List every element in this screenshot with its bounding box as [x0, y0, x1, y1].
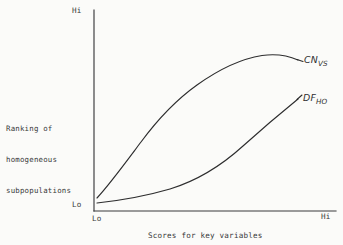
series-curve-df-ho	[97, 99, 298, 203]
x-axis-label: Scores for key variables	[148, 231, 263, 240]
series-leader-df-ho	[297, 95, 302, 100]
series-label-cn-vs-sub: VS	[318, 59, 328, 68]
y-axis-tick-lo: Lo	[72, 200, 82, 209]
series-curve-cn-vs	[97, 55, 298, 198]
y-axis-label-line-3: subpopulations	[6, 186, 90, 196]
x-axis-tick-hi: Hi	[321, 212, 331, 221]
chart-figure: Ranking of homogeneous subpopulations Hi…	[0, 0, 343, 245]
y-axis-label-line-2: homogeneous	[6, 155, 90, 165]
y-axis-label-line-1: Ranking of	[6, 124, 90, 134]
series-label-cn-vs-main: CN	[304, 54, 318, 65]
series-label-df-ho-main: DF	[303, 92, 316, 103]
y-axis-tick-hi: Hi	[72, 6, 82, 15]
series-label-df-ho-sub: HO	[316, 97, 327, 106]
x-axis-tick-lo: Lo	[92, 214, 102, 223]
series-label-cn-vs: CNVS	[304, 54, 328, 68]
series-label-df-ho: DFHO	[303, 92, 327, 106]
